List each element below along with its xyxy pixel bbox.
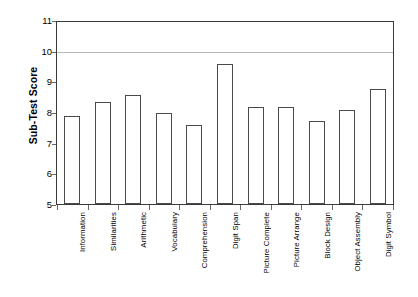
x-tick-mark [332, 205, 333, 210]
bar[interactable] [309, 121, 325, 204]
bar[interactable] [278, 107, 294, 204]
x-tick-mark [118, 205, 119, 210]
x-axis-label-similarities: Similarities [108, 212, 120, 297]
bar-chart: Sub-Test Score 567891011 InformationSimi… [0, 0, 418, 297]
x-tick-mark [240, 205, 241, 210]
x-tick-mark [301, 205, 302, 210]
y-tick-label-5: 5 [30, 200, 52, 210]
x-axis-label-block-design: Block Design [322, 212, 334, 297]
y-tick-label-10: 10 [30, 47, 52, 57]
x-axis-label-information: Information [77, 212, 89, 297]
bar-slot [57, 22, 88, 204]
x-tick-mark [362, 205, 363, 210]
y-tick-label-11: 11 [30, 16, 52, 26]
y-axis-tick-labels: 567891011 [26, 21, 52, 205]
y-tick-mark-7 [52, 144, 56, 145]
bar-slot [88, 22, 119, 204]
y-tick-label-9: 9 [30, 78, 52, 88]
bar[interactable] [156, 113, 172, 204]
x-axis-label-digit-span: Digit Span [230, 212, 242, 297]
bar-slot [149, 22, 180, 204]
y-tick-mark-5 [52, 205, 56, 206]
x-tick-mark [271, 205, 272, 210]
bar-slot [362, 22, 393, 204]
x-axis-category-labels: InformationSimilaritiesArithmeticVocabul… [56, 212, 394, 297]
x-axis-label-comprehension: Comprehension [199, 212, 211, 297]
x-tick-mark [393, 205, 394, 210]
x-tick-mark [149, 205, 150, 210]
bar[interactable] [186, 125, 202, 204]
bar-slot [179, 22, 210, 204]
y-tick-label-6: 6 [30, 170, 52, 180]
x-axis-label-picture-complete: Picture Complete [261, 212, 273, 297]
bar-slot [332, 22, 363, 204]
bar[interactable] [370, 89, 386, 204]
x-tick-mark [210, 205, 211, 210]
x-axis-label-arithmetic: Arithmetic [138, 212, 150, 297]
x-tick-mark [88, 205, 89, 210]
x-tick-mark [57, 205, 58, 210]
bar[interactable] [64, 116, 80, 204]
bar[interactable] [217, 64, 233, 204]
bar-slot [118, 22, 149, 204]
y-tick-mark-11 [52, 21, 56, 22]
x-axis-tick-marks [56, 205, 394, 211]
bar[interactable] [95, 102, 111, 204]
x-tick-mark [179, 205, 180, 210]
bar-slot [240, 22, 271, 204]
bar-slot [271, 22, 302, 204]
bar-slot [301, 22, 332, 204]
y-tick-mark-6 [52, 174, 56, 175]
y-tick-mark-10 [52, 52, 56, 53]
x-axis-label-object-assembly: Object Assembly [352, 212, 364, 297]
bar[interactable] [339, 110, 355, 204]
y-tick-label-7: 7 [30, 139, 52, 149]
bar[interactable] [125, 95, 141, 204]
x-axis-label-vocabulary: Vocabulary [169, 212, 181, 297]
bars-layer [57, 22, 393, 204]
bar[interactable] [248, 107, 264, 204]
y-tick-mark-9 [52, 82, 56, 83]
y-tick-label-8: 8 [30, 108, 52, 118]
x-axis-label-digit-symbol: Digit Symbol [383, 212, 395, 297]
y-tick-mark-8 [52, 113, 56, 114]
bar-slot [210, 22, 241, 204]
x-axis-label-picture-arrange: Picture Arrange [291, 212, 303, 297]
